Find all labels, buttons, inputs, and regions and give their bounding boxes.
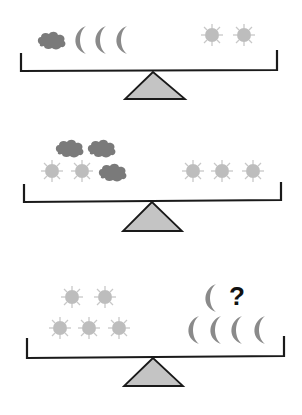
moon-icon <box>205 284 216 312</box>
moon-icon <box>231 316 242 344</box>
sun-icon <box>242 160 264 182</box>
sun-icon <box>49 317 71 339</box>
cloud-icon <box>88 140 116 158</box>
sun-icon <box>41 160 63 182</box>
sun-icon <box>182 160 204 182</box>
sun-icon <box>211 160 233 182</box>
scale-3-right-pan: ? <box>188 281 265 344</box>
cloud-icon <box>99 164 127 182</box>
question-mark: ? <box>229 281 245 311</box>
balance-puzzle-canvas: ? <box>0 0 302 415</box>
moon-icon <box>116 26 127 54</box>
scale-3-fulcrum <box>124 358 183 386</box>
scale-1-beam <box>21 50 277 71</box>
sun-icon <box>201 24 223 46</box>
scale-3: ? <box>27 281 284 386</box>
scale-2-beam <box>24 182 281 202</box>
sun-icon <box>78 317 100 339</box>
scale-2-left-pan <box>41 140 126 182</box>
cloud-icon <box>38 32 66 50</box>
scale-3-left-pan <box>49 286 130 339</box>
scale-2 <box>24 140 281 231</box>
scale-1 <box>21 24 277 99</box>
scale-1-fulcrum <box>125 72 185 99</box>
scale-1-left-pan <box>38 26 127 54</box>
moon-icon <box>95 26 106 54</box>
moon-icon <box>210 316 221 344</box>
scale-2-fulcrum <box>123 202 182 231</box>
sun-icon <box>233 24 255 46</box>
scale-3-beam <box>27 336 284 358</box>
sun-icon <box>61 286 83 308</box>
scale-2-right-pan <box>182 160 264 182</box>
moon-icon <box>254 316 265 344</box>
sun-icon <box>71 160 93 182</box>
moon-icon <box>188 316 199 344</box>
sun-icon <box>94 286 116 308</box>
sun-icon <box>108 317 130 339</box>
scale-1-right-pan <box>201 24 255 46</box>
moon-icon <box>75 26 86 54</box>
cloud-icon <box>56 140 84 158</box>
